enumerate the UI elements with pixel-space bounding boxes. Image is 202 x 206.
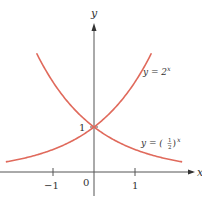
equation-half-denominator: 2 (168, 144, 172, 150)
y-tick-label-1: 1 (79, 122, 85, 133)
equation-half-pow-x: y = ( 1 2 ) x (140, 136, 181, 150)
y-axis-label: y (90, 7, 98, 20)
equation-2-pow-x-main: y = 2 (142, 67, 167, 77)
x-tick-label-neg1: −1 (44, 180, 59, 191)
x-tick-label-pos1: 1 (132, 180, 138, 191)
equation-2-pow-x: y = 2x (142, 65, 171, 77)
y-axis-arrow-icon (92, 23, 97, 31)
equation-half-exponent: x (177, 136, 181, 144)
equation-half-main: y = ( (140, 138, 163, 148)
origin-label: 0 (83, 177, 89, 188)
curve-2-pow-x (6, 53, 152, 162)
x-axis-arrow-icon (188, 170, 195, 175)
equation-half-numerator: 1 (168, 137, 172, 143)
equation-2-pow-x-exponent: x (167, 65, 171, 73)
x-axis-label: x (197, 166, 202, 179)
equation-half-close: ) (173, 138, 177, 148)
exponential-chart: y x −1 1 0 1 y = 2x y = ( 1 2 ) x (0, 0, 202, 206)
